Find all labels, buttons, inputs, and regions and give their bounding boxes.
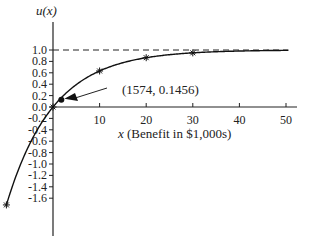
annotation-point — [58, 97, 64, 103]
utility-chart: 1.00.80.60.40.20.0-0.2-0.4-0.6-0.8-1.0-1… — [0, 0, 312, 249]
x-tick-label: 40 — [233, 113, 245, 127]
x-axis-title: x (Benefit in $1,000s) — [117, 126, 231, 141]
annotation-label: (1574, 0.1456) — [122, 82, 199, 97]
arrowhead-icon — [64, 93, 78, 101]
x-tick-label: 50 — [280, 113, 292, 127]
star-marker-icon — [96, 67, 103, 74]
y-axis-title: u(x) — [36, 3, 57, 18]
x-tick-label: 20 — [140, 113, 152, 127]
y-tick-label: -1.6 — [28, 191, 47, 205]
x-tick-label: 10 — [94, 113, 106, 127]
annotation: (1574, 0.1456) — [58, 82, 199, 103]
star-marker-icon — [143, 54, 150, 61]
x-tick-label: 30 — [187, 113, 199, 127]
x-axis-desc: (Benefit in $1,000s) — [124, 126, 232, 141]
star-marker-icon — [50, 104, 57, 111]
annotation-arrow — [72, 88, 107, 99]
star-marker-icon — [3, 201, 10, 208]
